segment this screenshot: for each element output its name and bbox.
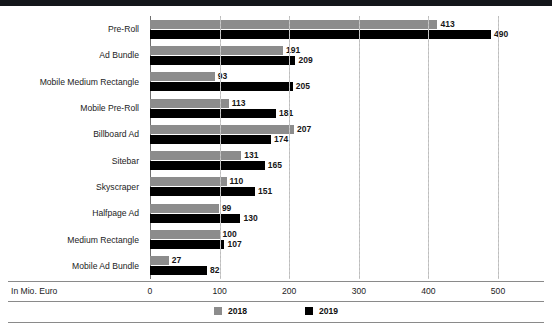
category-axis: Pre-RollAd BundleMobile Medium Rectangle… [0,16,145,279]
legend-item-2019[interactable]: 2019 [305,306,338,316]
category-label: Ad Bundle [99,50,139,60]
bar-row: 207 [150,125,552,134]
bar-value-label: 181 [279,109,293,118]
chart-legend: 2018 2019 [0,306,552,316]
bar-2018[interactable] [150,99,229,108]
bar-row: 191 [150,46,552,55]
top-dark-strip [0,0,552,6]
category-label: Medium Rectangle [67,235,139,245]
bar-2018[interactable] [150,204,219,213]
bar-2019[interactable] [150,135,271,144]
bar-row: 82 [150,266,552,275]
bar-2018[interactable] [150,20,437,29]
bar-group: 99130 [150,200,552,226]
category-label: Skyscraper [96,182,139,192]
bar-value-label: 174 [274,135,288,144]
bar-group: 110151 [150,174,552,200]
bar-value-label: 113 [232,99,246,108]
bar-row: 93 [150,72,552,81]
bar-group: 131165 [150,148,552,174]
bar-2018[interactable] [150,125,294,134]
bar-2018[interactable] [150,46,283,55]
bar-2019[interactable] [150,161,265,170]
bar-2018[interactable] [150,230,220,239]
bar-2018[interactable] [150,72,215,81]
bar-group: 93205 [150,69,552,95]
gridline-200 [289,16,290,279]
bar-value-label: 205 [296,82,310,91]
legend-label-2018: 2018 [228,306,247,316]
bar-value-label: 110 [230,177,244,186]
bar-row: 174 [150,135,552,144]
bar-value-label: 413 [440,20,454,29]
bar-row: 151 [150,187,552,196]
tick-label-400: 400 [421,286,435,296]
bar-group: 413490 [150,16,552,42]
category-label: Mobile Ad Bundle [72,261,139,271]
bar-row: 490 [150,30,552,39]
tick-label-500: 500 [491,286,505,296]
bar-2019[interactable] [150,109,276,118]
category-label: Halfpage Ad [92,208,139,218]
bar-row: 113 [150,99,552,108]
bar-row: 181 [150,109,552,118]
bar-2019[interactable] [150,30,491,39]
bar-2019[interactable] [150,187,255,196]
bar-value-label: 191 [286,46,300,55]
axis-rule-bottom [8,322,544,323]
legend-label-2019: 2019 [319,306,338,316]
bar-2019[interactable] [150,266,207,275]
bar-value-label: 82 [210,266,219,275]
tick-label-200: 200 [282,286,296,296]
bar-row: 130 [150,214,552,223]
category-label: Mobile Medium Rectangle [40,77,139,87]
chart-page: Pre-RollAd BundleMobile Medium Rectangle… [0,0,552,335]
gridline-500 [498,16,499,279]
bar-2019[interactable] [150,82,293,91]
axis-rule-top [8,281,544,282]
bar-2018[interactable] [150,177,227,186]
bar-row: 413 [150,20,552,29]
axis-rule-middle [8,301,544,302]
category-label: Billboard Ad [93,129,139,139]
tick-label-300: 300 [352,286,366,296]
value-axis-label: In Mio. Euro [11,286,57,296]
gridline-300 [359,16,360,279]
bar-value-label: 490 [494,30,508,39]
tick-label-100: 100 [212,286,226,296]
bar-value-label: 209 [298,56,312,65]
legend-swatch-2018-icon [214,307,222,315]
bar-group: 100107 [150,226,552,252]
bar-rows: 4134901912099320511318120717413116511015… [150,16,512,279]
bar-value-label: 27 [172,256,181,265]
bar-row: 131 [150,151,552,160]
gridline-400 [428,16,429,279]
plot-area: 4134901912099320511318120717413116511015… [150,16,512,279]
bar-2018[interactable] [150,256,169,265]
bar-row: 99 [150,204,552,213]
bar-2019[interactable] [150,214,240,223]
bar-row: 209 [150,56,552,65]
bar-value-label: 100 [223,230,237,239]
category-label: Mobile Pre-Roll [80,103,139,113]
bar-value-label: 131 [244,151,258,160]
bar-row: 107 [150,240,552,249]
tick-label-0: 0 [148,286,153,296]
bar-group: 191209 [150,42,552,68]
bar-row: 100 [150,230,552,239]
bar-row: 205 [150,82,552,91]
bar-value-label: 99 [222,204,231,213]
bar-value-label: 107 [227,240,241,249]
bar-2019[interactable] [150,56,295,65]
legend-swatch-2019-icon [305,307,313,315]
category-label: Sitebar [112,156,139,166]
bar-value-label: 165 [268,161,282,170]
bar-2019[interactable] [150,240,224,249]
bar-2018[interactable] [150,151,241,160]
bar-value-label: 207 [297,125,311,134]
bar-value-label: 130 [243,214,257,223]
bar-row: 27 [150,256,552,265]
bar-row: 110 [150,177,552,186]
legend-item-2018[interactable]: 2018 [214,306,247,316]
bar-group: 207174 [150,121,552,147]
